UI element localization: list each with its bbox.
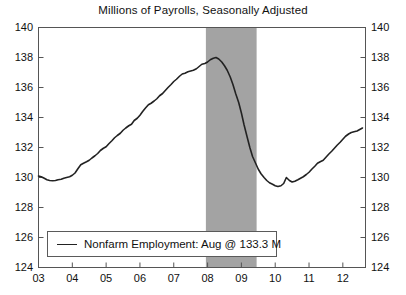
y-axis-tick-label-right: 126 — [371, 231, 404, 243]
chart-legend: Nonfarm Employment: Aug @ 133.3 M — [47, 231, 277, 257]
y-axis-tick-label: 132 — [0, 141, 33, 153]
y-axis-tick-label: 134 — [0, 111, 33, 123]
y-axis-tick-label: 126 — [0, 231, 33, 243]
y-axis-tick-label: 130 — [0, 171, 33, 183]
y-axis-tick-label-right: 138 — [371, 51, 404, 63]
y-axis-tick-label: 138 — [0, 51, 33, 63]
y-axis-ticks-right — [361, 28, 366, 268]
legend-line-swatch — [57, 244, 77, 245]
payrolls-line-chart: Millions of Payrolls, Seasonally Adjuste… — [0, 0, 406, 295]
x-axis-tick-label: 12 — [323, 272, 363, 284]
y-axis-tick-label-right: 134 — [371, 111, 404, 123]
y-axis-tick-label: 136 — [0, 81, 33, 93]
y-axis-tick-label: 128 — [0, 201, 33, 213]
nonfarm-employment-line — [39, 58, 363, 187]
y-axis-tick-label-right: 128 — [371, 201, 404, 213]
y-axis-ticks-left — [39, 28, 44, 268]
legend-label-nonfarm-employment: Nonfarm Employment: Aug @ 133.3 M — [84, 238, 281, 250]
y-axis-tick-label-right: 140 — [371, 21, 404, 33]
y-axis-tick-label-right: 132 — [371, 141, 404, 153]
y-axis-tick-label: 140 — [0, 21, 33, 33]
y-axis-tick-label-right: 136 — [371, 81, 404, 93]
y-axis-tick-label-right: 130 — [371, 171, 404, 183]
y-axis-tick-label-right: 124 — [371, 261, 404, 273]
x-axis-ticks — [39, 263, 343, 268]
